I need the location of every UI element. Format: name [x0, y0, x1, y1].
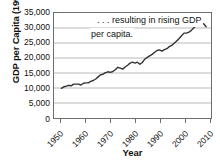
x-tick-mark — [185, 119, 186, 123]
y-tick-label: 0 — [45, 115, 50, 124]
y-tick-label: 10,000 — [24, 84, 50, 93]
x-tick-mark — [85, 119, 86, 123]
y-tick-label: 5,000 — [29, 99, 50, 108]
x-axis-title: Year — [53, 147, 212, 158]
x-axis-tick-labels: 1950196019701980199020002010 — [53, 124, 212, 146]
chart-annotation: . . . resulting in rising GDP per capita… — [90, 14, 206, 41]
x-tick-mark — [210, 119, 211, 123]
x-tick-mark — [110, 119, 111, 123]
y-tick-label: 25,000 — [24, 38, 50, 47]
annotation-line-1: . . . resulting in rising GDP — [96, 14, 203, 27]
annotation-line-2: per capita. — [90, 28, 134, 41]
y-tick-label: 15,000 — [24, 69, 50, 78]
x-tick-mark — [160, 119, 161, 123]
chart-figure: GDP per Capita (1990$) 35,00030,00025,00… — [0, 0, 220, 162]
x-tick-mark — [60, 119, 61, 123]
y-tick-label: 35,000 — [24, 8, 50, 17]
y-tick-label: 30,000 — [24, 23, 50, 32]
x-tick-mark — [135, 119, 136, 123]
y-axis-tick-labels: 35,00030,00025,00020,00015,00010,0005,00… — [8, 8, 52, 119]
y-tick-label: 20,000 — [24, 53, 50, 62]
